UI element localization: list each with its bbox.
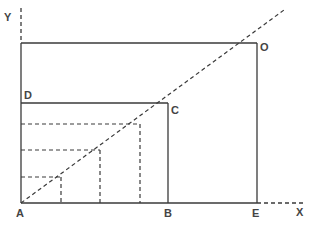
label-point-D: D bbox=[24, 89, 32, 101]
diagram-canvas: Y X A B E D C O bbox=[0, 0, 319, 231]
label-point-C: C bbox=[171, 104, 179, 116]
label-point-O: O bbox=[260, 41, 269, 53]
label-y-axis: Y bbox=[4, 11, 12, 23]
label-point-A: A bbox=[16, 207, 24, 219]
label-x-axis: X bbox=[296, 206, 304, 218]
label-point-B: B bbox=[164, 207, 172, 219]
label-point-E: E bbox=[252, 207, 259, 219]
diagonal-AO bbox=[21, 10, 284, 203]
